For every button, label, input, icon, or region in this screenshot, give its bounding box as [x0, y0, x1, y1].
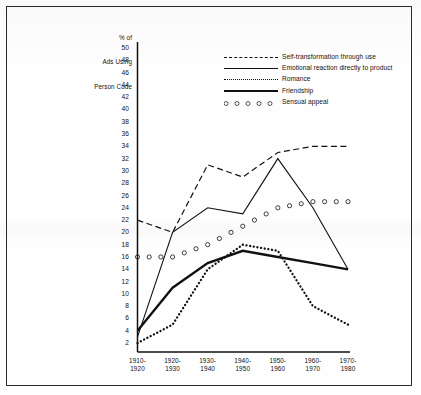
series-dashed [138, 146, 349, 232]
series-solid-thick [138, 251, 349, 331]
series-solid-thin [138, 159, 349, 337]
series-dotted [138, 245, 349, 343]
chart-plot-area [0, 0, 421, 395]
